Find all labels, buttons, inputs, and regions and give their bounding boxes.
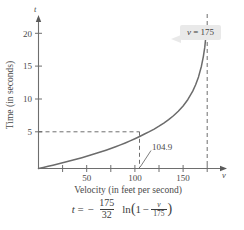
equation-lhs: t <box>72 204 75 215</box>
inner-numerator: v <box>155 201 162 209</box>
coefficient-fraction: 175 32 <box>97 198 116 220</box>
callout-equals: = <box>193 27 198 37</box>
inner-minus: − <box>143 204 149 215</box>
logarithmic-curve <box>39 31 207 169</box>
curve-group <box>39 31 207 169</box>
velocity-time-figure: t v 20 15 10 5 50 10 <box>0 0 244 230</box>
inner-fraction: v175 <box>151 201 166 218</box>
y-tick-label-5: 5 <box>28 127 33 137</box>
ln-operator: ln <box>122 204 131 215</box>
y-tick-label-20: 20 <box>23 29 33 39</box>
annotation-label-104-9: 104.9 <box>152 142 173 152</box>
close-paren: ) <box>168 202 173 216</box>
equation-caption: t = − 175 32 ln(1−v175) <box>0 198 244 220</box>
y-tick-label-15: 15 <box>23 61 33 71</box>
asymptote-callout: v = 175 <box>180 25 221 40</box>
x-tick-label-150: 150 <box>176 173 190 183</box>
y-axis-title: Time (in seconds) <box>5 61 16 129</box>
x-tick-label-100: 100 <box>128 173 142 183</box>
coefficient-denominator: 32 <box>100 209 114 221</box>
equation: t = − 175 32 ln(1−v175) <box>72 198 172 220</box>
equation-equals: = <box>77 204 83 215</box>
y-axis-arrowhead <box>36 15 41 22</box>
annotation-leader-line <box>140 151 151 168</box>
inner-denominator: 175 <box>151 209 166 218</box>
coefficient-numerator: 175 <box>97 198 116 209</box>
ln-group: ln(1−v175) <box>122 201 172 218</box>
callout-variable: v <box>187 27 191 37</box>
x-tick-label-50: 50 <box>82 173 92 183</box>
callout-value: 175 <box>201 27 215 37</box>
x-axis-tick-labels: 50 100 150 <box>82 173 190 183</box>
x-axis-variable-label: v <box>222 170 226 180</box>
x-axis-title: Velocity (in feet per second) <box>74 185 182 196</box>
y-axis-tick-labels: 20 15 10 5 <box>23 29 33 138</box>
equation-minus: − <box>88 204 94 215</box>
one-term: 1 <box>136 204 142 215</box>
y-tick-label-10: 10 <box>23 94 33 104</box>
y-axis-variable-label: t <box>34 4 37 14</box>
